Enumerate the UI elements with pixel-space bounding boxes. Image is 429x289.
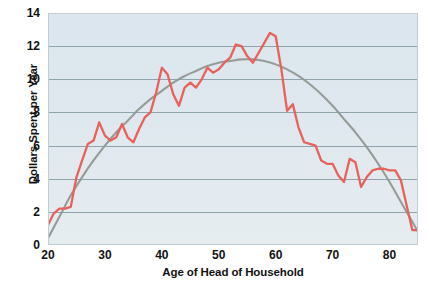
plot-border (49, 14, 418, 245)
y-tick-label: 8 (0, 106, 40, 118)
x-tick-label: 40 (140, 249, 184, 261)
chart-container: Dollars Spent per Year 02468101214 20304… (0, 0, 429, 289)
x-axis-title: Age of Head of Household (48, 266, 418, 278)
y-tick-label: 4 (0, 173, 40, 185)
y-tick-label: 12 (0, 40, 40, 52)
x-tick-label: 20 (26, 249, 70, 261)
x-tick-label: 50 (197, 249, 241, 261)
y-tick-label: 6 (0, 140, 40, 152)
plot-svg (48, 13, 418, 245)
x-tick-label: 30 (83, 249, 127, 261)
y-tick-label: 14 (0, 7, 40, 19)
trend-curve (48, 59, 418, 238)
x-tick-label: 60 (254, 249, 298, 261)
x-tick-label: 80 (368, 249, 412, 261)
y-tick-label: 10 (0, 73, 40, 85)
data-series-layer (48, 33, 418, 238)
y-axis-title: Dollars Spent per Year (27, 29, 39, 219)
plot-area (48, 13, 418, 245)
data-line (48, 33, 418, 230)
x-tick-label: 70 (311, 249, 355, 261)
y-tick-label: 2 (0, 206, 40, 218)
